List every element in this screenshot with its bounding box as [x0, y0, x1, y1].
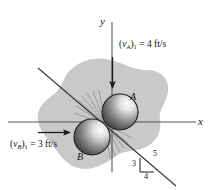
velocity-b-value: 3	[38, 139, 43, 149]
impact-diagram-figure: y x A B (vA)1 = 4 ft/s (vB)1 = 3 ft/s 3 …	[0, 0, 211, 190]
ball-b-label: B	[77, 152, 83, 162]
velocity-b-state-subscript: 1	[25, 143, 28, 150]
slope-triangle-horizontal-label: 4	[144, 173, 148, 181]
velocity-a-label: (vA)1 = 4 ft/s	[119, 40, 166, 50]
velocity-a-units: ft/s	[154, 39, 166, 49]
diagram-canvas	[0, 0, 211, 190]
velocity-b-label: (vB)1 = 3 ft/s	[10, 140, 57, 150]
ball-b-sphere	[74, 119, 110, 155]
velocity-b-equals: =	[30, 139, 35, 149]
slope-triangle-hypotenuse-label: 5	[153, 150, 157, 158]
ball-a-label: A	[130, 92, 136, 102]
velocity-a-equals: =	[139, 39, 144, 49]
velocity-a-state-subscript: 1	[134, 43, 137, 50]
slope-triangle-vertical-label: 3	[132, 160, 136, 168]
velocity-b-body-subscript: B	[17, 143, 21, 150]
velocity-b-units: ft/s	[45, 139, 57, 149]
y-axis-label: y	[100, 16, 105, 27]
x-axis-label: x	[198, 116, 203, 127]
velocity-a-body-subscript: A	[126, 43, 130, 50]
velocity-a-value: 4	[147, 39, 152, 49]
